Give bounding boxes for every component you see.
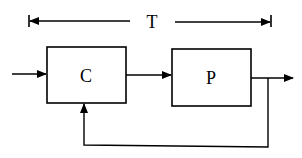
block-diagram: T C P xyxy=(0,0,302,158)
span-label: T xyxy=(147,13,158,31)
controller-label: C xyxy=(80,67,92,85)
plant-label: P xyxy=(206,69,216,87)
feedback-path xyxy=(84,78,268,147)
